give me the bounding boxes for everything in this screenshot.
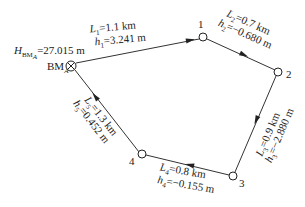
station-4-marker	[138, 150, 146, 158]
svg-text:h1=3.241 m: h1=3.241 m	[94, 31, 147, 50]
benchmark-elevation: HBMA=27.015 m	[13, 44, 85, 61]
station-2-marker	[274, 68, 282, 76]
segment-3-annotation: L3=0.9 km h3=−2.880 m	[252, 102, 299, 165]
station-3-marker	[229, 172, 237, 180]
arrow-icon	[252, 115, 260, 125]
leveling-route-diagram: 1 2 3 4 BMA HBMA=27.015 m L1=1.1 km h1=3…	[0, 0, 305, 207]
segment-4-annotation: L4=0.8 km h4=−0.155 m	[155, 160, 218, 198]
station-3-label: 3	[239, 177, 245, 189]
segment-2-annotation: L2=0.7 km h2=−0.680 m	[215, 5, 279, 53]
station-4-label: 4	[129, 155, 135, 167]
segment-1-annotation: L1=1.1 km h1=3.241 m	[88, 18, 147, 51]
direction-arrows	[90, 37, 260, 169]
station-1-label: 1	[198, 18, 204, 30]
station-2-label: 2	[286, 68, 292, 80]
route-lines	[75, 39, 276, 175]
station-1-marker	[199, 33, 207, 41]
benchmark-label: BMA	[47, 60, 69, 75]
